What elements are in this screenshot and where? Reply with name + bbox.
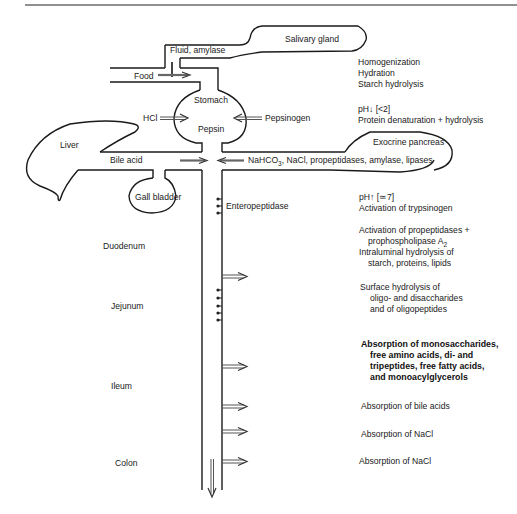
brush-border-tacks-icon	[216, 288, 222, 321]
process-ileum-nacl: Absorption of NaCl	[361, 429, 433, 439]
process-ileum-bile: Absorption of bile acids	[361, 401, 450, 411]
process-absorption-3: tripeptides, free fatty acids,	[370, 361, 484, 371]
hcl-label: HCl	[143, 113, 157, 123]
process-duodenum-act-2: prophospholipase A2	[368, 236, 448, 248]
pepsinogen-label: Pepsinogen	[265, 113, 311, 123]
salivary-gland-label: Salivary gland	[285, 34, 339, 44]
absorption-arrow-icon	[222, 363, 247, 371]
enteropeptidase-tacks-icon	[216, 197, 222, 214]
process-absorption-4: and monoacylglycerols	[370, 372, 468, 382]
bile-acid-arrow-icon	[180, 158, 207, 164]
bile-duct-bottom	[78, 170, 202, 178]
process-stomach-1: pH↓ [<2]	[358, 104, 390, 114]
absorption-arrow-icon	[222, 273, 247, 281]
fluid-amylase-label: Fluid, amylase	[170, 45, 226, 55]
exocrine-pancreas-label: Exocrine pancreas	[373, 137, 444, 147]
digestive-tract-diagram: Salivary gland Fluid, amylase Food Stoma…	[0, 0, 517, 514]
process-duodenum-ph-2: Activation of trypsinogen	[359, 203, 453, 213]
liver-label: Liver	[60, 140, 79, 150]
exit-arrow-icon	[208, 459, 216, 497]
process-mouth-1: Homogenization	[358, 57, 420, 67]
segment-jejunum: Jejunum	[111, 301, 143, 311]
esophagus-wall-bottom	[110, 82, 200, 90]
process-duodenum-act-3: Intraluminal hydrolysis of	[359, 247, 454, 257]
pancreatic-arrow-icon	[218, 158, 244, 164]
segment-duodenum: Duodenum	[103, 241, 145, 251]
enteropeptidase-label: Enteropeptidase	[226, 201, 289, 211]
colon-nacl-absorption-arrow-icon	[222, 458, 247, 466]
process-jejunum-surface-3: and of oligopeptides	[370, 304, 447, 314]
gall-bladder-label: Gall bladder	[135, 192, 181, 202]
process-duodenum-act-1: Activation of propeptidases +	[359, 225, 470, 235]
segment-colon: Colon	[115, 458, 138, 468]
pepsinogen-arrow-icon	[234, 114, 262, 122]
bile-acid-label: Bile acid	[110, 155, 143, 165]
bile-acid-absorption-arrow-icon	[222, 403, 247, 411]
pepsin-label: Pepsin	[198, 124, 224, 134]
process-duodenum-ph-1: pH↑ [≃7]	[359, 192, 394, 202]
process-mouth-3: Starch hydrolysis	[358, 79, 423, 89]
process-jejunum-surface-1: Surface hydrolysis of	[360, 282, 440, 292]
process-mouth-2: Hydration	[358, 68, 395, 78]
stomach-label: Stomach	[194, 95, 228, 105]
process-absorption-2: free amino acids, di- and	[370, 350, 473, 360]
esophagus-right-wall	[180, 68, 218, 90]
process-stomach-2: Protein denaturation + hydrolysis	[358, 115, 483, 125]
food-label: Food	[134, 71, 154, 81]
food-arrow-icon	[158, 72, 190, 78]
process-duodenum-act-4: starch, proteins, lipids	[368, 258, 451, 268]
segment-ileum: Ileum	[111, 381, 132, 391]
pancreatic-secretion-label: NaHCO3, NaCl, propeptidases, amylase, li…	[248, 155, 433, 167]
nacl-absorption-arrow-icon	[222, 428, 247, 436]
process-colon-nacl: Absorption of NaCl	[359, 456, 431, 466]
process-absorption-1: Absorption of monosaccharides,	[361, 339, 498, 349]
process-jejunum-surface-2: oligo- and disaccharides	[370, 293, 463, 303]
